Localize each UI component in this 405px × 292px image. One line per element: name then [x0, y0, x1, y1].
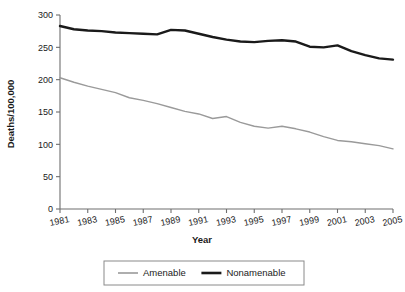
x-tick-label: 2005 [382, 214, 404, 228]
x-tick-label: 1997 [271, 214, 293, 228]
x-axis: 1981198319851987198919911993199519971999… [49, 209, 404, 228]
x-tick-label: 1985 [104, 214, 126, 228]
y-axis-title: Deaths/100,000 [5, 80, 16, 149]
y-tick-label: 50 [43, 172, 53, 182]
x-tick-label: 1983 [76, 214, 98, 228]
x-tick-label: 2001 [326, 214, 348, 228]
y-tick-label-group: 050100150200250300 [38, 10, 53, 214]
y-tick-label: 150 [38, 107, 53, 117]
x-tick-label: 2003 [354, 214, 376, 228]
chart-container: 050100150200250300 198119831985198719891… [0, 0, 405, 292]
y-tick-label: 200 [38, 75, 53, 85]
x-tick-label: 1987 [132, 214, 154, 228]
series-group [60, 26, 393, 149]
x-tick-label: 1991 [187, 214, 209, 228]
line-chart: 050100150200250300 198119831985198719891… [0, 0, 405, 292]
x-tick-group [60, 209, 393, 213]
x-axis-title: Year [192, 234, 212, 245]
y-tick-label: 0 [48, 204, 53, 214]
x-tick-label: 1989 [160, 214, 182, 228]
y-tick-label: 300 [38, 10, 53, 20]
y-tick-label: 250 [38, 43, 53, 53]
legend: AmenableNonamenable [104, 261, 304, 285]
y-axis: 050100150200250300 [38, 10, 60, 214]
series-line-amenable [60, 78, 393, 149]
x-tick-label: 1993 [215, 214, 237, 228]
legend-label-amenable: Amenable [143, 267, 186, 278]
legend-label-nonamenable: Nonamenable [226, 267, 285, 278]
x-tick-label: 1981 [49, 214, 71, 228]
series-line-nonamenable [60, 26, 393, 60]
x-tick-label: 1995 [243, 214, 265, 228]
y-tick-group [56, 15, 60, 209]
x-tick-label-group: 1981198319851987198919911993199519971999… [49, 214, 404, 228]
x-tick-label: 1999 [298, 214, 320, 228]
y-tick-label: 100 [38, 140, 53, 150]
